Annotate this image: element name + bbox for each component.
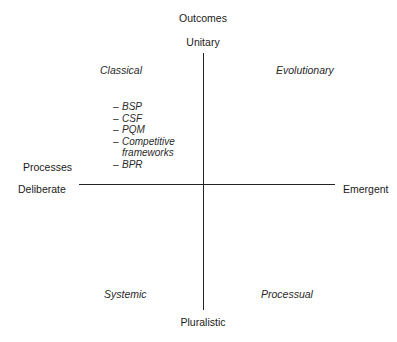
vertical-axis-bottom-label: Pluralistic: [181, 317, 226, 328]
quadrant-label-processual: Processual: [261, 289, 313, 300]
quadrant-label-classical: Classical: [100, 65, 142, 76]
vertical-axis-title: Outcomes: [179, 13, 227, 24]
classical-examples-list: –BSP –CSF –PQM –Competitiveframeworks –B…: [113, 101, 175, 171]
list-item: –Competitiveframeworks: [113, 136, 175, 159]
vertical-axis-top-label: Unitary: [186, 37, 219, 48]
quadrant-label-evolutionary: Evolutionary: [276, 65, 334, 76]
horizontal-axis-title: Processes: [23, 162, 72, 173]
horizontal-axis-left-label: Deliberate: [18, 184, 66, 195]
list-item: –BPR: [113, 159, 175, 171]
list-item: –CSF: [113, 113, 175, 125]
quadrant-label-systemic: Systemic: [104, 289, 147, 300]
list-item: –PQM: [113, 124, 175, 136]
list-item: –BSP: [113, 101, 175, 113]
vertical-axis-line: [203, 53, 204, 310]
horizontal-axis-right-label: Emergent: [343, 184, 389, 195]
horizontal-axis-line: [79, 184, 335, 185]
